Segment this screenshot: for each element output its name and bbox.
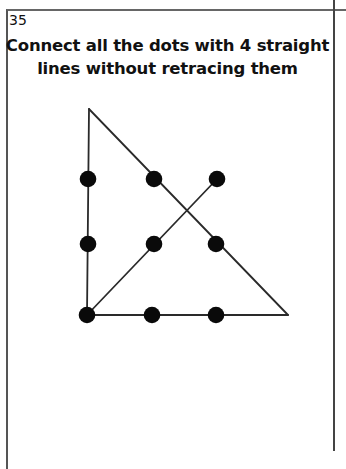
dot-r2-c1 bbox=[80, 236, 97, 253]
dot-r3-c1 bbox=[79, 307, 96, 324]
dot-r1-c2 bbox=[146, 171, 163, 188]
dot-r1-c3 bbox=[209, 171, 226, 188]
dot-r2-c3 bbox=[208, 236, 225, 253]
dot-r3-c2 bbox=[144, 307, 161, 324]
dot-r2-c2 bbox=[146, 236, 163, 253]
dot-r1-c1 bbox=[80, 171, 97, 188]
dot-r3-c3 bbox=[208, 307, 225, 324]
line-1-vertical bbox=[87, 109, 89, 315]
solution-lines bbox=[87, 109, 288, 315]
line-2-diagonal-down bbox=[89, 109, 288, 315]
